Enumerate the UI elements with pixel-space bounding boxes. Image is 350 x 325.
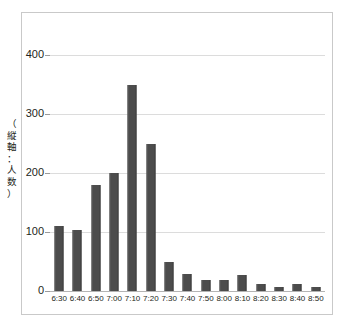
x-axis-tick-group: 6:306:406:507:007:107:207:307:407:508:00… — [50, 294, 325, 310]
y-axis-tick-label: 100 — [0, 226, 44, 237]
bar-slot — [142, 55, 160, 291]
bar — [110, 173, 119, 291]
bar — [256, 284, 265, 291]
bar-slot — [68, 55, 86, 291]
bar-slot — [160, 55, 178, 291]
bar — [73, 230, 82, 291]
x-axis-tick-label: 8:10 — [233, 294, 251, 304]
bar-slot — [307, 55, 325, 291]
bar-slot — [288, 55, 306, 291]
y-axis-tick-label: 300 — [0, 108, 44, 119]
x-axis-tick-label: 8:50 — [307, 294, 325, 304]
x-axis-tick-label: 7:30 — [160, 294, 178, 304]
chart-figure: （ 縦 軸 ： 人 数 ） 0100200300400 6:306:406:50… — [0, 0, 350, 325]
x-axis-tick-label: 7:10 — [123, 294, 141, 304]
bar — [146, 144, 155, 292]
x-axis-tick-label: 6:30 — [50, 294, 68, 304]
x-axis-tick-label: 7:00 — [105, 294, 123, 304]
bar — [165, 262, 174, 292]
x-axis-tick-label: 7:40 — [178, 294, 196, 304]
bar-slot — [215, 55, 233, 291]
x-axis-tick-label: 6:40 — [68, 294, 86, 304]
y-axis-tick-label: 0 — [0, 285, 44, 296]
x-axis-tick-label: 7:50 — [197, 294, 215, 304]
bar-slot — [50, 55, 68, 291]
bar-slot — [270, 55, 288, 291]
plot-area — [50, 55, 325, 291]
bar — [201, 280, 210, 291]
bar — [55, 226, 64, 291]
bar — [183, 274, 192, 291]
bar — [275, 287, 284, 291]
bar — [293, 284, 302, 291]
x-axis-tick-label: 8:20 — [252, 294, 270, 304]
x-axis-tick-label: 6:50 — [87, 294, 105, 304]
bar — [220, 280, 229, 291]
bar — [311, 287, 320, 291]
bar — [238, 275, 247, 291]
x-axis-tick-label: 7:20 — [142, 294, 160, 304]
y-axis-tick-label: 400 — [0, 49, 44, 60]
bar-slot — [197, 55, 215, 291]
bar-slot — [105, 55, 123, 291]
y-axis-tick-label: 200 — [0, 167, 44, 178]
bar-series — [50, 55, 325, 291]
gridline-0 — [50, 291, 325, 292]
bar-slot — [178, 55, 196, 291]
bar-slot — [123, 55, 141, 291]
x-axis-tick-label: 8:40 — [288, 294, 306, 304]
y-axis-tick-group: 0100200300400 — [0, 0, 50, 325]
x-axis-tick-label: 8:30 — [270, 294, 288, 304]
bar-slot — [233, 55, 251, 291]
bar — [128, 85, 137, 292]
bar-slot — [252, 55, 270, 291]
bar — [91, 185, 100, 291]
x-axis-tick-label: 8:00 — [215, 294, 233, 304]
bar-slot — [87, 55, 105, 291]
